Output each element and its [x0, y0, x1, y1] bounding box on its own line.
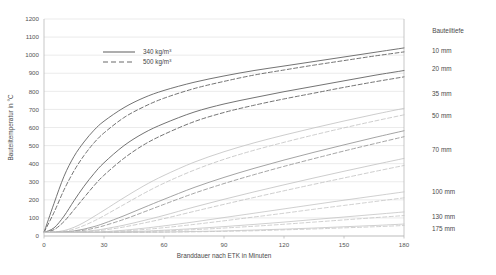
x-axis-title: Branddauer nach ETK in Minuten	[177, 252, 272, 259]
depth-label-175mm: 175 mm	[432, 225, 455, 232]
y-tick-label-400: 400	[29, 160, 40, 167]
x-tick-label-90: 90	[221, 241, 228, 248]
y-tick-label-0: 0	[36, 232, 40, 239]
y-tick-label-200: 200	[29, 196, 40, 203]
legend-label-1: 340 kg/m3	[143, 48, 172, 56]
y-tick-label-1200: 1200	[25, 15, 39, 22]
x-tick-label-30: 30	[101, 241, 108, 248]
y-tick-label-700: 700	[29, 106, 40, 113]
x-tick-label-0: 0	[42, 241, 46, 248]
depth-label-70mm: 70 mm	[432, 146, 452, 153]
y-tick-label-900: 900	[29, 69, 40, 76]
chart-figure: 0100200300400500600700800900100011001200…	[0, 0, 496, 275]
y-tick-label-800: 800	[29, 88, 40, 95]
y-tick-label-1000: 1000	[25, 51, 39, 58]
legend-label-2: 500 kg/m3	[143, 58, 172, 66]
x-tick-label-120: 120	[279, 241, 290, 248]
x-tick-label-180: 180	[399, 241, 410, 248]
y-tick-label-300: 300	[29, 178, 40, 185]
depth-label-100mm: 100 mm	[432, 188, 455, 195]
depth-label-50mm: 50 mm	[432, 112, 452, 119]
chart-svg: 0100200300400500600700800900100011001200…	[0, 0, 496, 275]
depth-label-130mm: 130 mm	[432, 213, 455, 220]
y-tick-label-600: 600	[29, 124, 40, 131]
depth-label-10mm: 10 mm	[432, 47, 452, 54]
y-tick-label-100: 100	[29, 214, 40, 221]
y-tick-label-500: 500	[29, 142, 40, 149]
y-axis-title: Bauteiltemperatur in °C	[7, 94, 15, 161]
x-tick-label-150: 150	[339, 241, 350, 248]
depth-group-title: Bauteiltiefe	[432, 27, 464, 34]
y-tick-label-1100: 1100	[26, 33, 40, 40]
x-tick-label-60: 60	[161, 241, 168, 248]
depth-label-20mm: 20 mm	[432, 65, 452, 72]
depth-label-35mm: 35 mm	[432, 90, 452, 97]
